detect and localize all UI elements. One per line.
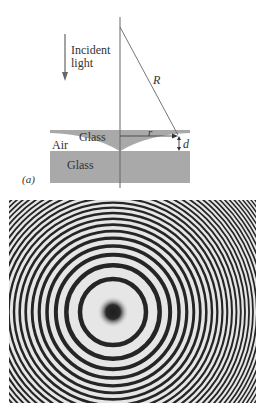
dark-ring xyxy=(9,200,256,403)
dark-ring xyxy=(9,200,256,403)
dark-ring xyxy=(9,200,256,403)
dark-ring xyxy=(9,200,256,403)
dark-ring xyxy=(9,200,256,403)
dark-ring xyxy=(9,200,256,403)
dark-ring xyxy=(9,200,256,403)
dark-ring xyxy=(9,200,256,403)
incident-light-label-2: light xyxy=(71,57,93,70)
d-arrowhead-up-icon xyxy=(177,136,181,140)
dark-ring xyxy=(9,200,256,403)
dark-ring xyxy=(9,200,256,403)
radius-label: R xyxy=(153,74,160,87)
radius-line xyxy=(120,27,178,135)
dark-ring xyxy=(9,200,256,403)
newton-rings-diagram xyxy=(0,0,270,200)
newton-rings-photo xyxy=(9,200,256,403)
dark-ring xyxy=(9,200,256,403)
dark-ring xyxy=(9,200,256,403)
dark-ring xyxy=(9,200,256,403)
dark-ring xyxy=(9,200,256,403)
dark-ring xyxy=(9,200,256,403)
lens-glass-label: Glass xyxy=(79,131,106,144)
dark-ring xyxy=(9,200,256,403)
dark-ring xyxy=(9,200,256,403)
dark-ring xyxy=(9,200,256,403)
dark-ring xyxy=(9,200,256,403)
dark-ring xyxy=(9,200,256,403)
dark-ring xyxy=(9,200,256,403)
dark-ring xyxy=(9,200,256,403)
dark-ring xyxy=(9,200,256,403)
dark-ring xyxy=(9,200,256,403)
dark-ring xyxy=(9,200,256,403)
small-radius-label: r xyxy=(148,126,152,139)
dark-ring xyxy=(9,200,256,403)
dark-ring xyxy=(9,200,256,403)
dark-ring xyxy=(9,200,256,403)
dark-ring xyxy=(9,200,256,403)
dark-ring xyxy=(9,200,256,403)
dark-ring xyxy=(9,200,256,403)
gap-label: d xyxy=(183,138,189,151)
dark-ring xyxy=(9,200,256,403)
dark-ring xyxy=(9,200,256,403)
dark-ring xyxy=(9,200,256,403)
dark-ring xyxy=(9,200,256,403)
dark-ring xyxy=(9,200,256,403)
dark-ring xyxy=(9,200,256,403)
dark-ring xyxy=(9,200,256,403)
center-dark-spot xyxy=(97,296,129,328)
panel-label: (a) xyxy=(22,173,35,186)
dark-ring xyxy=(9,200,256,403)
dark-ring xyxy=(9,200,256,403)
plate-glass-label: Glass xyxy=(67,159,94,172)
d-arrowhead-down-icon xyxy=(177,147,181,151)
dark-ring xyxy=(9,200,256,403)
incident-arrowhead-icon xyxy=(62,72,68,81)
dark-ring xyxy=(9,200,249,403)
air-label: Air xyxy=(52,139,68,152)
dark-ring xyxy=(9,200,256,403)
dark-ring xyxy=(9,200,256,403)
